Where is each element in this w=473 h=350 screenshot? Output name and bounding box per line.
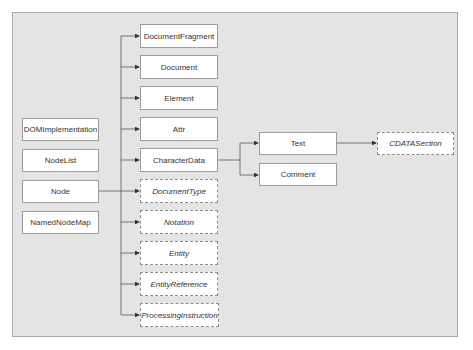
box-cdatasection: CDATASection [377,132,454,155]
box-documentfragment: DocumentFragment [140,24,218,48]
box-domimplementation: DOMImplementation [22,118,99,141]
box-entityreference: EntityReference [140,272,218,296]
box-text: Text [259,132,337,155]
box-documenttype: DocumentType [140,179,218,203]
box-notation: Notation [140,210,218,234]
box-attr: Attr [140,117,218,141]
box-element: Element [140,86,218,110]
box-characterdata: CharacterData [140,148,218,172]
box-nodelist: NodeList [22,149,99,172]
box-comment: Comment [259,163,337,186]
box-namednodemap: NamedNodeMap [22,211,99,234]
box-entity: Entity [140,241,218,265]
connector-lines [0,0,473,350]
box-document: Document [140,55,218,79]
box-node: Node [22,180,99,203]
box-processinginstruction: ProcessingInstruction [140,303,219,327]
